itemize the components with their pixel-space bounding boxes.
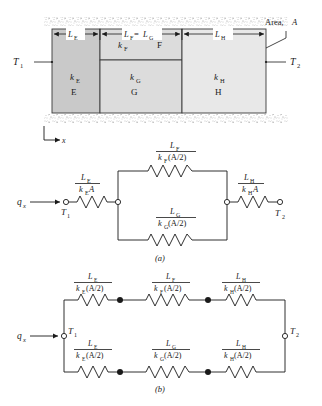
- circuit-b-top-RE-num-sub: E: [94, 277, 98, 283]
- circuit-a-RG-den: k: [158, 218, 162, 228]
- circuit-a-RE-den: k: [79, 184, 83, 194]
- wall-schematic: k E E k F F k G G k H H L E L F = L G L …: [13, 17, 300, 145]
- dimension-label-equals: =: [134, 29, 139, 39]
- circuit-b-bot-RG-den-tail: (A/2): [164, 351, 182, 360]
- circuit-b-top-RF-num: L: [165, 272, 171, 281]
- circuit-b-top-RF-den: k: [154, 284, 158, 293]
- circuit-b-node-T1: [61, 333, 66, 338]
- circuit-b-rail-top-right: [277, 300, 285, 333]
- area-label: Area,: [265, 17, 284, 27]
- circuit-a-resistor-G: [139, 234, 227, 246]
- circuit-a-resistor-E: [69, 196, 116, 208]
- circuit-b: q x T 1 L E k E (A/2) L F k F (A/2) L H …: [17, 272, 299, 394]
- block-E-conductivity-sub: E: [76, 77, 80, 84]
- block-G-conductivity-sub: G: [136, 77, 141, 84]
- circuit-b-node-T2: [282, 333, 287, 338]
- circuit-b-bot-RH-num-sub: H: [242, 344, 246, 350]
- dimension-label-LE: L: [67, 29, 73, 39]
- circuit-b-top-RH-den-tail: (A/2): [234, 284, 252, 293]
- circuit-b-bottom-resistor-G: [138, 366, 204, 378]
- circuit-a-RG-num: L: [169, 206, 175, 216]
- circuit-a-junction-right: [224, 199, 229, 204]
- circuit-b-top-RE-den: k: [76, 284, 80, 293]
- circuit-a-flux-sub: x: [22, 202, 26, 209]
- dimension-label-LG-sub: G: [149, 35, 154, 41]
- circuit-b-rail-bottom-left: [64, 339, 72, 372]
- circuit-a-resistor-H: [230, 196, 277, 208]
- circuit-b-bot-RG-num: L: [165, 339, 171, 348]
- block-G: [100, 60, 182, 113]
- circuit-a-caption: (a): [155, 253, 165, 263]
- circuit-b-top-resistor-F: [138, 294, 204, 306]
- circuit-a-T2-label: T: [275, 208, 281, 218]
- circuit-a-node-T2: [277, 199, 282, 204]
- T2-leader-dot: [265, 61, 267, 63]
- circuit-b-bot-RG-num-sub: G: [172, 344, 176, 350]
- block-H: [182, 29, 266, 113]
- block-E: [52, 29, 100, 113]
- circuit-a-RF-den: k: [158, 152, 162, 162]
- circuit-a-rail-top-left: [118, 171, 139, 199]
- dimension-label-LH-sub: H: [221, 35, 226, 41]
- dimension-label-LF: L: [123, 29, 129, 39]
- T1-leader-dot: [51, 61, 53, 63]
- block-E-id: E: [71, 87, 77, 97]
- circuit-b-top-RE-den-tail: (A/2): [86, 284, 104, 293]
- circuit-b-bot-RE-num: L: [87, 339, 93, 348]
- dimension-label-LH: L: [214, 29, 220, 39]
- circuit-a-RF-num: L: [169, 140, 175, 150]
- circuit-b-bottom-resistor-H: [220, 366, 277, 378]
- circuit-b-top-RF-den-sub: F: [160, 289, 163, 295]
- circuit-b-rail-bottom-right: [277, 339, 285, 372]
- circuit-a-RH-num: L: [243, 172, 249, 182]
- circuit-a-RE-num-sub: E: [87, 178, 91, 184]
- circuit-b-T2-sub: 2: [296, 332, 299, 338]
- dimension-label-LG: L: [142, 29, 148, 39]
- figure-container: k E E k F F k G G k H H L E L F = L G L …: [0, 0, 322, 406]
- circuit-a-T1-sub: 1: [67, 213, 70, 219]
- block-F-id: F: [157, 40, 162, 50]
- insulation-band-top: [44, 17, 288, 26]
- axis-x-label: x: [61, 136, 66, 145]
- circuit-b-bot-RH-den-tail: (A/2): [234, 351, 252, 360]
- circuit-a: q x T 1 L E k E A L F k F (A/2) L G: [17, 140, 285, 263]
- circuit-a-flux-label: q: [17, 197, 22, 207]
- block-H-id: H: [215, 87, 222, 97]
- circuit-a-rail-bottom-left: [118, 205, 139, 240]
- wall-temp-right-sub: 2: [297, 62, 300, 69]
- block-G-id: G: [131, 87, 138, 97]
- insulation-band-bottom: [44, 114, 288, 123]
- circuit-a-RF-den-tail: (A/2): [168, 152, 187, 162]
- circuit-a-RF-num-sub: F: [176, 146, 180, 152]
- circuit-b-flux-sub: x: [22, 336, 26, 343]
- circuit-b-bot-RE-den: k: [76, 351, 80, 360]
- circuit-b-bot-RH-den: k: [224, 351, 228, 360]
- circuit-a-resistor-F: [139, 165, 227, 177]
- circuit-b-top-RH-num-sub: H: [242, 277, 246, 283]
- circuit-b-bot-RE-den-tail: (A/2): [86, 351, 104, 360]
- circuit-a-RE-den-tail: A: [88, 184, 95, 194]
- circuit-a-RE-num: L: [80, 172, 86, 182]
- wall-temp-left: T: [13, 56, 20, 67]
- circuit-a-node-T1: [63, 199, 68, 204]
- circuit-b-top-RH-num: L: [235, 272, 241, 281]
- circuit-a-junction-left: [115, 199, 120, 204]
- circuit-a-RG-num-sub: G: [176, 212, 181, 218]
- circuit-b-flux-label: q: [17, 331, 22, 341]
- block-F-conductivity-sub: F: [124, 45, 128, 52]
- circuit-b-top-resistor-E: [72, 294, 116, 306]
- dimension-label-LE-sub: E: [74, 35, 78, 41]
- circuit-a-T2-sub: 2: [282, 214, 285, 220]
- circuit-b-top-RF-num-sub: F: [172, 277, 175, 283]
- circuit-b-top-RH-den: k: [224, 284, 228, 293]
- block-H-conductivity-sub: H: [220, 77, 225, 84]
- wall-temp-right: T: [290, 56, 297, 67]
- circuit-b-bottom-resistor-E: [72, 366, 116, 378]
- area-label-symbol: A: [291, 17, 298, 27]
- circuit-a-RH-num-sub: H: [250, 178, 255, 184]
- circuit-b-top-RE-num: L: [87, 272, 93, 281]
- circuit-b-T1-sub: 1: [74, 332, 77, 338]
- circuit-b-bot-RH-num: L: [235, 339, 241, 348]
- wall-temp-left-sub: 1: [20, 62, 23, 69]
- circuit-a-RH-den-tail: A: [252, 184, 259, 194]
